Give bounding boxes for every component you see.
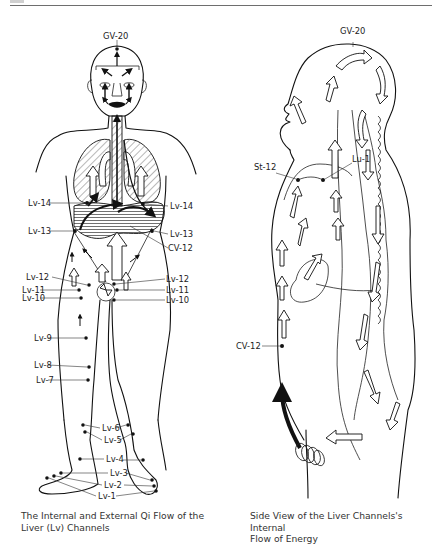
- st12-lu1-connector: [298, 177, 323, 180]
- label-lv2: Lv-2: [104, 480, 122, 490]
- label-gv20-front: GV-20: [103, 31, 128, 41]
- side-figure: GV-20 St-12 Lu-1 CV-12: [236, 26, 415, 498]
- liver-stomach-region: [74, 202, 164, 239]
- label-lv9: Lv-9: [34, 333, 52, 343]
- label-lv7: Lv-7: [36, 375, 54, 385]
- face-flow-arrows: [104, 54, 130, 104]
- caption-front-line2: Liver (Lv) Channels: [21, 522, 204, 534]
- label-lv10-left: Lv-10: [22, 293, 45, 303]
- caption-side: Side View of the Liver Channels's Intern…: [250, 510, 440, 545]
- label-lv11-right: Lv-11: [166, 285, 189, 295]
- caption-side-line1: Side View of the Liver Channels's Intern…: [250, 510, 440, 533]
- label-gv20-side: GV-20: [340, 26, 365, 36]
- front-right-leg: [109, 300, 158, 494]
- label-cv12-side: CV-12: [236, 341, 261, 351]
- label-lv3: Lv-3: [110, 468, 128, 478]
- shoulder-curve: [284, 164, 352, 200]
- stomach-outline: [290, 259, 328, 302]
- genital-region: [97, 283, 115, 301]
- label-cv12-front: CV-12: [168, 243, 193, 253]
- mouth: [108, 102, 126, 108]
- label-lv10-right: Lv-10: [166, 295, 189, 305]
- hairline: [96, 66, 139, 70]
- label-st12: St-12: [254, 162, 276, 172]
- label-lv4: Lv-4: [106, 454, 124, 464]
- gv20-point-front: [115, 47, 119, 51]
- label-lv6: Lv-6: [102, 423, 120, 433]
- front-right-calf: [158, 420, 166, 470]
- label-lv14-right: Lv-14: [170, 201, 193, 211]
- caption-side-line2: Flow of Energy: [250, 533, 440, 545]
- front-figure: GV-20: [22, 31, 196, 501]
- label-lv12-right: Lv-12: [166, 274, 189, 284]
- label-lv14-left: Lv-14: [28, 198, 51, 208]
- label-lu1: Lu-1: [352, 154, 370, 164]
- front-left-leg: [39, 300, 100, 494]
- label-lv1: Lv-1: [98, 491, 116, 501]
- nose: [112, 83, 122, 96]
- label-lv13-right: Lv-13: [170, 229, 193, 239]
- abdomen-hollow-arrow: [107, 232, 127, 280]
- caption-front-line1: The Internal and External Qi Flow of the: [21, 510, 204, 522]
- diaphragm-line: [316, 284, 376, 291]
- groin-hollow-arrow: [95, 264, 109, 282]
- label-lv5: Lv-5: [104, 435, 122, 445]
- side-leg-front: [306, 430, 308, 498]
- cv12-point-side: [280, 344, 284, 348]
- label-lv12-left: Lv-12: [26, 272, 49, 282]
- label-lv13-left: Lv-13: [28, 226, 51, 236]
- label-lv8: Lv-8: [34, 360, 52, 370]
- caption-front: The Internal and External Qi Flow of the…: [21, 510, 204, 533]
